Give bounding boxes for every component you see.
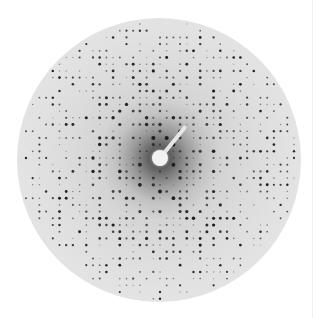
beam-stop <box>152 150 168 166</box>
diffraction-image <box>0 0 318 318</box>
edge-line <box>312 0 313 318</box>
